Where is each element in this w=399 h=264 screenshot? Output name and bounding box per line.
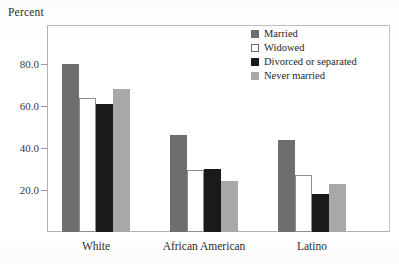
y-axis-tick [41,190,48,191]
y-axis-tick-label-wrap: 20.0 [0,184,39,196]
bar-white-never-married [113,89,130,232]
legend-label: Widowed [264,42,304,53]
y-axis-tick-label-wrap: 60.0 [0,100,39,112]
legend-item: Divorced or separated [251,55,387,68]
bar-latino-never-married [329,184,346,232]
x-axis-category-label: White [82,240,110,252]
bar-latino-widowed [295,175,312,232]
bar-african-american-never-married [221,181,238,232]
bar-white-divorced-or-separated [96,104,113,232]
y-axis-tick-label-wrap: 40.0 [0,142,39,154]
legend-label: Married [264,28,298,39]
bar-african-american-widowed [187,170,204,232]
y-axis-tick-label-wrap: 80.0 [0,58,39,70]
y-axis-title: Percent [8,6,44,18]
y-axis-tick-label: 40.0 [3,142,39,154]
legend-swatch-icon [251,30,259,38]
x-axis-category-label: Latino [297,240,327,252]
bar-latino-divorced-or-separated [312,194,329,232]
y-axis-tick-label: 60.0 [3,100,39,112]
legend-item: Widowed [251,41,387,54]
y-axis-tick-label: 20.0 [3,184,39,196]
y-axis-tick [41,106,48,107]
bar-white-widowed [79,98,96,232]
chart-legend: MarriedWidowedDivorced or separatedNever… [251,27,387,83]
legend-swatch-icon [251,72,259,80]
y-axis-tick [41,148,48,149]
bar-african-american-married [170,135,187,232]
bar-african-american-divorced-or-separated [204,169,221,232]
bar-chart-figure: Percent 20.040.060.080.0 WhiteAfrican Am… [0,0,399,264]
legend-item: Married [251,27,387,40]
y-axis-tick-label: 80.0 [3,58,39,70]
x-axis-category-label: African American [163,240,246,252]
legend-item: Never married [251,69,387,82]
legend-label: Divorced or separated [264,56,357,67]
y-axis-tick [41,64,48,65]
legend-swatch-icon [251,44,259,52]
legend-label: Never married [264,70,325,81]
bar-white-married [62,64,79,232]
bar-latino-married [278,140,295,232]
legend-swatch-icon [251,58,259,66]
